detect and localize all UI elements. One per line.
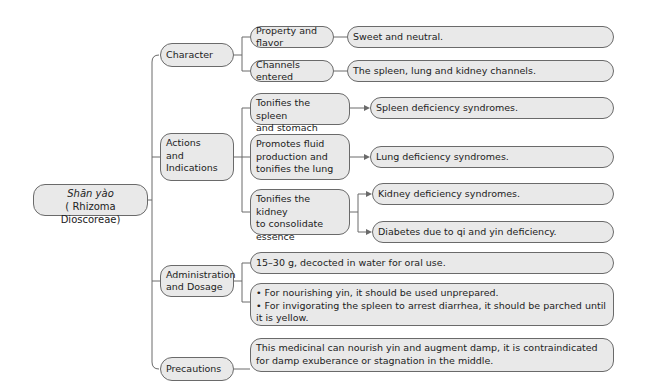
node-label: Property and flavor [256,25,328,50]
action-tonify-kidney: Tonifies the kidney to consolidate essen… [250,189,350,235]
node-value: Diabetes due to qi and yin deficiency. [378,226,557,239]
category-precautions: Precautions [160,357,234,381]
category-character: Character [160,43,234,67]
root-subtitle: ( Rhizoma Dioscoreae) [34,200,147,226]
result-diabetes: Diabetes due to qi and yin deficiency. [372,221,614,243]
node-label: Channels entered [256,59,328,84]
root-node: Shān yào ( Rhizoma Dioscoreae) [33,184,148,216]
result-lung-deficiency: Lung deficiency syndromes. [370,146,614,168]
node-label: Tonifies the kidney to consolidate essen… [256,193,344,243]
node-value: • For nourishing yin, it should be used … [256,287,608,325]
node-value: 15–30 g, decocted in water for oral use. [256,257,446,270]
category-actions-indications: Actions and Indications [160,133,234,181]
channels-entered-node: Channels entered [250,60,334,82]
preparation-notes-node: • For nourishing yin, it should be used … [250,283,614,326]
action-tonify-spleen: Tonifies the spleen and stomach [250,93,350,125]
result-spleen-deficiency: Spleen deficiency syndromes. [370,97,614,119]
category-label: Precautions [166,363,221,376]
property-flavor-node: Property and flavor [250,26,334,48]
node-value: The spleen, lung and kidney channels. [353,65,536,78]
node-value: Spleen deficiency syndromes. [376,102,518,115]
category-label: Actions and Indications [166,137,218,175]
category-administration-dosage: Administration and Dosage [160,265,234,297]
property-flavor-value: Sweet and neutral. [347,26,614,48]
result-kidney-deficiency: Kidney deficiency syndromes. [372,183,614,205]
category-label: Character [166,49,213,62]
action-promote-fluid: Promotes fluid production and tonifies t… [250,134,350,180]
dosage-node: 15–30 g, decocted in water for oral use. [250,252,614,274]
category-label: Administration and Dosage [166,269,236,294]
node-value: This medicinal can nourish yin and augme… [256,342,608,367]
node-label: Promotes fluid production and tonifies t… [256,138,333,176]
root-title: Shān yào [34,187,147,200]
precautions-node: This medicinal can nourish yin and augme… [250,338,614,372]
node-value: Sweet and neutral. [353,31,443,44]
node-label: Tonifies the spleen and stomach [256,97,344,135]
node-value: Lung deficiency syndromes. [376,151,509,164]
node-value: Kidney deficiency syndromes. [378,188,520,201]
channels-entered-value: The spleen, lung and kidney channels. [347,60,614,82]
